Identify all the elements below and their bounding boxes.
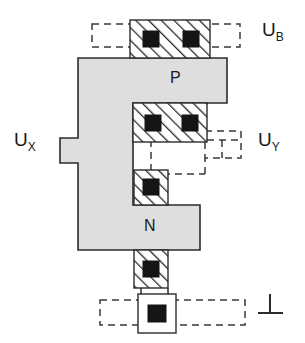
diagram-svg (0, 0, 305, 343)
contact-notch-group (134, 170, 168, 205)
figure-canvas: UB UX UY P N (0, 0, 305, 343)
contact-ground-pad (148, 305, 166, 322)
contact-mid-right (182, 115, 198, 131)
contact-bottom-group (134, 250, 168, 288)
contact-mid-left (145, 115, 161, 131)
region-label-n: N (144, 218, 156, 234)
region-label-p: P (170, 70, 181, 86)
contact-notch (143, 179, 159, 195)
terminal-label-ub: UB (262, 20, 284, 43)
ground-pad-group (138, 288, 176, 333)
contact-bar-ub (130, 20, 210, 58)
contact-top-right (183, 31, 199, 47)
terminal-label-ux: UX (14, 130, 36, 153)
contact-bottom (143, 261, 159, 277)
contact-top-left (143, 31, 159, 47)
ground-symbol-icon (258, 294, 283, 313)
contact-bar-uy (133, 103, 207, 142)
terminal-label-uy: UY (258, 130, 280, 153)
